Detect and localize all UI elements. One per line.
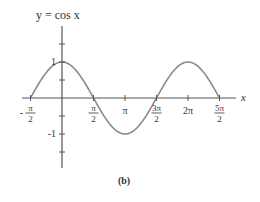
y-tick-label: 1 (51, 56, 56, 67)
x-tick-fraction-label: 3π2 (152, 103, 162, 124)
x-tick-fraction-label: π2- (20, 103, 36, 124)
x-tick-label: 2π (183, 105, 193, 116)
x-tick-label: π (122, 105, 127, 116)
chart-title: y = cos x (36, 8, 80, 22)
cosine-chart: y = cos x π2-π2π3π22π5π2 1-1 x (b) (0, 0, 260, 202)
svg-text:5π: 5π (215, 103, 225, 113)
x-axis-ticks: π2-π2π3π22π5π2 (20, 95, 225, 124)
svg-text:2: 2 (217, 114, 222, 124)
axes (22, 26, 236, 168)
svg-text:π: π (91, 103, 96, 113)
figure-caption: (b) (118, 175, 130, 187)
svg-text:3π: 3π (152, 103, 162, 113)
x-tick-fraction-label: 5π2 (215, 103, 225, 124)
y-tick-label: -1 (48, 128, 56, 139)
x-tick-fraction-label: π2 (89, 103, 99, 124)
svg-text:2: 2 (28, 114, 33, 124)
svg-text:2: 2 (154, 114, 159, 124)
x-axis-label: x (240, 91, 246, 103)
svg-text:π: π (28, 103, 33, 113)
svg-text:2: 2 (91, 114, 96, 124)
svg-text:-: - (20, 107, 23, 118)
